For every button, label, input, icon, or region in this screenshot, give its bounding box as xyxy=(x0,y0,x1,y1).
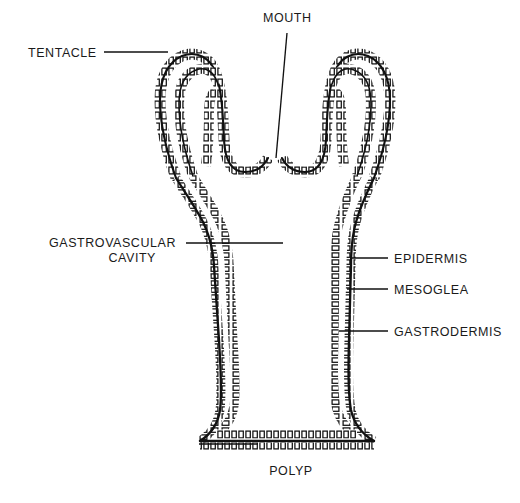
label-gastrovascular-cavity-line2: CAVITY xyxy=(108,251,156,265)
label-polyp: POLYP xyxy=(269,464,313,478)
label-tentacle: TENTACLE xyxy=(28,46,97,60)
label-gastrovascular-cavity-line1: GASTROVASCULAR xyxy=(49,236,176,250)
label-mesoglea: MESOGLEA xyxy=(394,283,469,297)
label-epidermis: EPIDERMIS xyxy=(394,252,468,266)
polyp-anatomy-diagram: TENTACLE MOUTH GASTROVASCULAR CAVITY EPI… xyxy=(0,0,520,503)
label-mouth: MOUTH xyxy=(263,11,312,25)
label-gastrodermis: GASTRODERMIS xyxy=(394,325,502,339)
